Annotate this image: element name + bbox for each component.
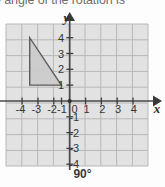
coordinate-plane-figure: -4 -3 -2 -1 1 2 3 4 0 4 3 2 1 -1 -2 -3 -… (0, 10, 165, 170)
y-tick-label: -2 (69, 127, 79, 139)
figure-caption: 90° (0, 167, 165, 181)
x-tick-label: -3 (31, 103, 41, 115)
coordinate-plane-svg: -4 -3 -2 -1 1 2 3 4 0 4 3 2 1 -1 -2 -3 -… (0, 10, 165, 170)
x-tick-label: -2 (47, 103, 57, 115)
question-text-strip: e angle of the rotation is (0, 0, 165, 8)
x-tick-label: 4 (131, 103, 137, 115)
question-text: e angle of the rotation is (0, 0, 125, 7)
x-tick-label: -1 (57, 103, 67, 115)
x-tick-label: 1 (83, 103, 89, 115)
y-tick-label: 1 (58, 79, 64, 91)
y-tick-label: 4 (58, 32, 64, 44)
x-axis-label: x (153, 101, 161, 116)
y-tick-label: 2 (58, 63, 64, 75)
y-axis-label: y (62, 10, 70, 25)
y-tick-label: -1 (69, 111, 79, 123)
x-tick-label: -4 (16, 103, 26, 115)
y-tick-label: 3 (58, 48, 64, 60)
x-tick-label: 3 (115, 103, 121, 115)
y-tick-label: -3 (69, 142, 79, 154)
x-tick-label: 2 (99, 103, 105, 115)
